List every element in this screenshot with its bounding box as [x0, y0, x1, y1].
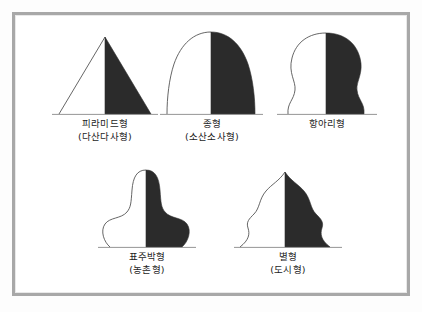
star-filled-right: [285, 172, 330, 247]
star-outline-left: [240, 172, 285, 247]
figure-root: 피라미드형 (다산다사형) 종형 (소산소사형) 항아리형 표주박형 (농촌형)…: [0, 0, 422, 312]
chart-gourd: [98, 170, 196, 247]
pyramid-outline-left: [59, 37, 105, 114]
pot-outline-left: [288, 33, 326, 114]
bell-outline-left: [167, 32, 211, 114]
caption-pot: 항아리형: [267, 118, 387, 131]
caption-star-sublabel: (도시형): [228, 264, 348, 277]
caption-star: 별형 (도시형): [228, 251, 348, 276]
pyramid-filled-right: [105, 37, 151, 114]
caption-star-label: 별형: [228, 251, 348, 264]
chart-star: [234, 172, 342, 247]
caption-bell-label: 종형: [152, 118, 272, 131]
gourd-filled-right: [146, 170, 189, 247]
caption-pyramid: 피라미드형 (다산다사형): [45, 118, 165, 143]
caption-bell: 종형 (소산소사형): [152, 118, 272, 143]
caption-pyramid-label: 피라미드형: [45, 118, 165, 131]
chart-pyramid: [52, 37, 158, 114]
caption-pot-label: 항아리형: [267, 118, 387, 131]
chart-pot: [277, 33, 377, 114]
caption-pyramid-sublabel: (다산다사형): [45, 131, 165, 144]
gourd-outline-left: [103, 170, 146, 247]
pot-filled-right: [326, 33, 364, 114]
caption-gourd-label: 표주박형: [87, 251, 207, 264]
caption-gourd: 표주박형 (농촌형): [87, 251, 207, 276]
chart-bell: [160, 32, 263, 114]
bell-filled-right: [211, 32, 255, 114]
caption-gourd-sublabel: (농촌형): [87, 264, 207, 277]
caption-bell-sublabel: (소산소사형): [152, 131, 272, 144]
population-pyramid-diagram: [0, 0, 422, 312]
